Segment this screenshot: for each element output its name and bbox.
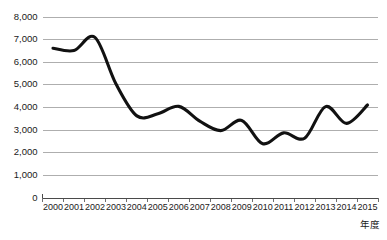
x-axis-tick-label: 2004 xyxy=(127,202,147,212)
x-axis-title: 年度 xyxy=(360,219,380,230)
x-axis-tick-label: 2005 xyxy=(148,202,168,212)
x-axis-tick-label: 2008 xyxy=(211,202,231,212)
x-axis-tick-label: 2002 xyxy=(85,202,105,212)
x-axis-tick-label: 2012 xyxy=(295,202,315,212)
x-axis-tick-label: 2001 xyxy=(64,202,84,212)
y-axis-tick-label: 4,000 xyxy=(14,101,38,112)
y-axis-tick-label: 5,000 xyxy=(14,78,38,89)
x-axis-tick-label: 2003 xyxy=(106,202,126,212)
y-axis-tick-label: 0 xyxy=(32,192,37,203)
y-axis-tick-label: 6,000 xyxy=(14,56,38,67)
x-axis-tick-label: 2013 xyxy=(316,202,336,212)
chart-canvas: 01,0002,0003,0004,0005,0006,0007,0008,00… xyxy=(0,0,387,240)
y-axis-tick-label: 1,000 xyxy=(14,169,38,180)
y-axis-tick-labels: 01,0002,0003,0004,0005,0006,0007,0008,00… xyxy=(14,11,38,203)
x-axis-tick-label: 2010 xyxy=(253,202,273,212)
y-axis-tick-label: 8,000 xyxy=(14,11,38,22)
y-axis-tick-label: 7,000 xyxy=(14,33,38,44)
x-axis-tick-label: 2007 xyxy=(190,202,210,212)
y-axis-tick-label: 2,000 xyxy=(14,146,38,157)
y-axis-tick-label: 3,000 xyxy=(14,124,38,135)
line-chart: 01,0002,0003,0004,0005,0006,0007,0008,00… xyxy=(0,0,387,240)
x-axis-tick-label: 2000 xyxy=(43,202,63,212)
x-axis-tick-labels: 2000200120022003200420052006200720082009… xyxy=(43,202,378,212)
x-axis-tick-label: 2014 xyxy=(337,202,357,212)
x-axis-tick-label: 2011 xyxy=(274,202,293,212)
x-axis-tick-label: 2006 xyxy=(169,202,189,212)
x-axis-tick-label: 2009 xyxy=(232,202,252,212)
x-axis-tick-label: 2015 xyxy=(358,202,378,212)
